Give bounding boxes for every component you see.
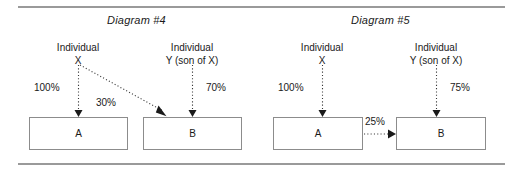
edge-label-75-percent: 75% [450,82,470,93]
box-label: B [189,128,196,139]
person-label-individual-y: Individual Y (son of X) [166,42,219,67]
person-line-2: Y (son of X) [166,55,219,68]
person-line-1: Individual [166,42,219,55]
person-label-individual-x: Individual X [57,42,99,67]
box-b: B [396,117,486,150]
box-label: B [438,128,445,139]
edge-label-30-percent: 30% [96,97,116,108]
panel-diagram-5: Diagram #5 Individual X Individual Y (so… [257,0,504,172]
person-label-individual-x: Individual X [301,42,343,67]
box-label: A [315,128,322,139]
diagram-figure: Diagram #4 Individual X Individual Y (so… [0,0,517,172]
person-label-individual-y: Individual Y (son of X) [410,42,463,67]
person-line-1: Individual [410,42,463,55]
edge-label-100-percent: 100% [278,82,304,93]
person-line-2: X [301,55,343,68]
person-line-2: X [57,55,99,68]
box-a: A [273,117,363,150]
person-line-1: Individual [301,42,343,55]
person-line-1: Individual [57,42,99,55]
panel-title: Diagram #5 [257,14,504,26]
edge-label-100-percent: 100% [34,82,60,93]
panel-diagram-4: Diagram #4 Individual X Individual Y (so… [13,0,260,172]
edge-label-70-percent: 70% [206,82,226,93]
box-b: B [143,117,242,150]
box-label: A [75,128,82,139]
edge-label-25-percent: 25% [365,116,385,127]
box-a: A [29,117,128,150]
panel-title: Diagram #4 [13,14,260,26]
person-line-2: Y (son of X) [410,55,463,68]
